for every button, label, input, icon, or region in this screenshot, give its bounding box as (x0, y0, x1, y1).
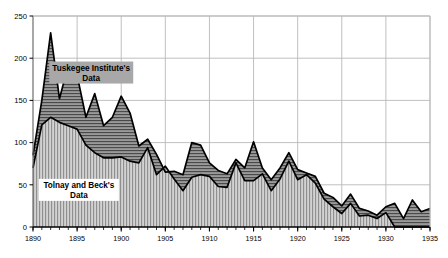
annotation-line-2: Data (82, 74, 100, 83)
annotation-line-2: Data (70, 191, 88, 200)
x-tick-label: 1925 (334, 234, 350, 243)
x-tick-label: 1920 (290, 234, 306, 243)
x-tick-label: 1890 (25, 234, 41, 243)
y-tick-label: 0 (23, 223, 27, 232)
x-tick-label: 1930 (378, 234, 394, 243)
annotation-line-1: Tuskegee Institute's (52, 64, 130, 73)
y-tick-label: 200 (14, 54, 27, 63)
chart-canvas: 1890189519001905191019151920192519301935… (0, 0, 448, 258)
x-tick-label: 1910 (201, 234, 217, 243)
annotation-label-tuskegee: Tuskegee Institute'sData (49, 62, 133, 84)
x-tick-label: 1935 (422, 234, 438, 243)
x-tick-label: 1915 (246, 234, 262, 243)
y-tick-label: 50 (19, 181, 27, 190)
y-tick-label: 100 (14, 138, 27, 147)
y-tick-label: 250 (14, 12, 27, 21)
annotation-line-1: Tolnay and Beck's (43, 181, 114, 190)
annotation-label-tolnay-beck: Tolnay and Beck'sData (39, 179, 119, 201)
y-tick-label: 150 (14, 96, 27, 105)
x-tick-label: 1895 (69, 234, 85, 243)
x-tick-label: 1900 (113, 234, 129, 243)
x-tick-label: 1905 (157, 234, 173, 243)
lynching-statistics-chart: 1890189519001905191019151920192519301935… (0, 0, 448, 258)
